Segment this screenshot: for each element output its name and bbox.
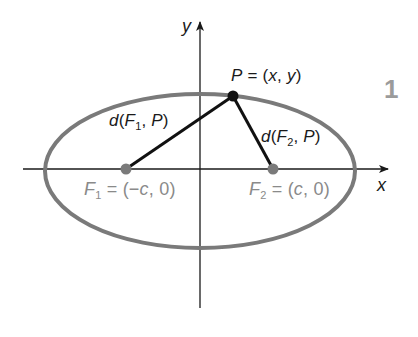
focus-f2-c: c — [294, 179, 303, 199]
point-symbol: P — [151, 111, 163, 130]
point-p-name: P — [231, 66, 243, 85]
point-p-sep: , — [277, 66, 287, 85]
distance-d: d — [261, 127, 271, 146]
distance-d: d — [109, 111, 119, 130]
distance-f2-p-label: d(F2, P) — [261, 128, 321, 148]
focus-symbol: F — [277, 127, 288, 146]
point-p-y: y — [287, 66, 296, 85]
point-p-close: ) — [296, 66, 302, 85]
segment-f1-p — [126, 96, 233, 169]
ellipse-diagram — [0, 0, 418, 337]
focus-f1-label: F1 = (−c, 0) — [84, 180, 176, 201]
paren-close: ) — [315, 127, 321, 146]
focus-f1-c: c — [140, 179, 149, 199]
point-p-x: x — [268, 66, 277, 85]
focus-f2-label: F2 = (c, 0) — [249, 180, 330, 201]
distance-f1-p-label: d(F1, P) — [109, 112, 169, 132]
focus-f1-rest: , 0) — [149, 179, 176, 199]
point-p-dot — [228, 91, 239, 102]
separator: , — [141, 111, 151, 130]
watermark-checkmark-icon: 1 — [384, 74, 398, 105]
focus-f1-eq: = (− — [102, 179, 140, 199]
point-p-eq: = ( — [243, 66, 269, 85]
point-p-label: P = (x, y) — [231, 67, 302, 84]
point-symbol: P — [303, 127, 315, 146]
focus-symbol: F — [125, 111, 136, 130]
x-axis-label: x — [377, 176, 386, 194]
paren-close: ) — [163, 111, 169, 130]
focus-f2-rest: , 0) — [303, 179, 330, 199]
separator: , — [293, 127, 303, 146]
focus-f2-dot — [268, 164, 279, 175]
focus-f1-dot — [121, 164, 132, 175]
focus-f2-name: F — [249, 179, 260, 199]
focus-f2-eq: = ( — [267, 179, 294, 199]
focus-f1-name: F — [84, 179, 95, 199]
y-axis-label: y — [182, 17, 191, 35]
